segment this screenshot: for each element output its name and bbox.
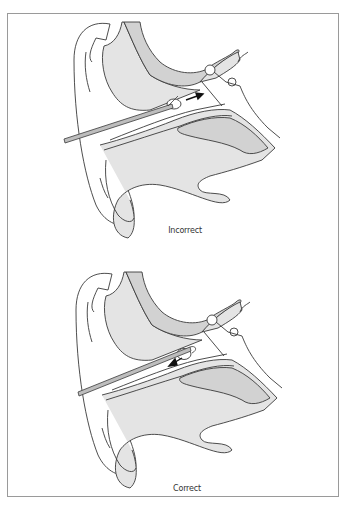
caption-correct: Correct bbox=[173, 484, 201, 493]
panel-incorrect: Incorrect bbox=[0, 0, 349, 250]
ear-canal-illustration-incorrect bbox=[0, 0, 349, 250]
panel-correct: Correct bbox=[0, 250, 349, 509]
caption-incorrect: Incorrect bbox=[168, 226, 202, 235]
ear-canal-illustration-correct bbox=[0, 250, 349, 509]
